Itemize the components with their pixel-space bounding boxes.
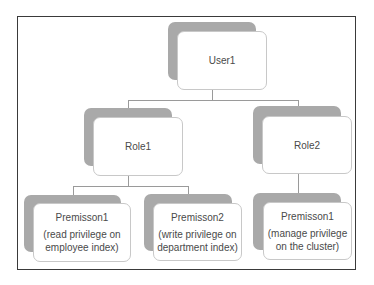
permission3-desc-line2: on the cluster) — [276, 240, 339, 253]
permission2-desc-line1: (write privilege on — [158, 228, 236, 241]
user-node-label: User1 — [209, 54, 236, 67]
permission1-desc-line1: (read privilege on — [43, 228, 120, 241]
permission2-node: Premisson2 (write privilege on departmen… — [153, 203, 242, 261]
permission1-node: Premisson1 (read privilege on employee i… — [33, 203, 131, 262]
permission2-title: Premisson2 — [171, 211, 224, 224]
permission1-desc-line2: employee index) — [45, 241, 118, 254]
role1-node: Role1 — [93, 117, 183, 176]
permission3-node: Premisson1 (manage privilege on the clus… — [263, 202, 352, 260]
permission3-title: Premisson1 — [281, 210, 334, 223]
connector-perm2-up — [188, 186, 189, 194]
connector-role1-down — [128, 176, 129, 186]
permission2-desc-line2: department index) — [157, 241, 238, 254]
connector-perm1-up — [73, 186, 74, 195]
role2-node-label: Role2 — [294, 139, 320, 152]
connector-role2-down — [298, 174, 299, 193]
role1-node-label: Role1 — [125, 140, 151, 153]
permission3-desc-line1: (manage privilege — [268, 227, 348, 240]
connector-roles-bar — [128, 100, 299, 101]
user-node: User1 — [177, 31, 267, 90]
connector-user-down — [212, 89, 213, 100]
connector-perms-bar — [73, 186, 189, 187]
permission1-title: Premisson1 — [56, 211, 109, 224]
role2-node: Role2 — [262, 116, 352, 174]
